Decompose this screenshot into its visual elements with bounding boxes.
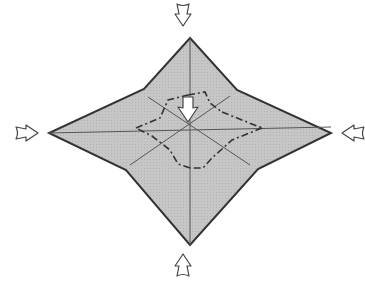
- push-arrow-left-icon: [16, 125, 38, 141]
- push-arrow-right-icon: [342, 125, 364, 141]
- push-arrow-top-icon: [175, 4, 191, 26]
- origami-diagram: [0, 0, 365, 287]
- push-arrow-bottom-icon: [175, 254, 191, 276]
